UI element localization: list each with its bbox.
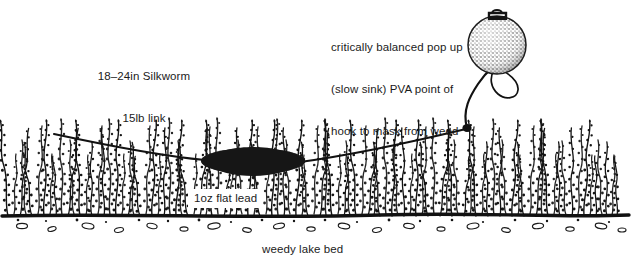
label-silkworm-link: 18–24in Silkworm 15lb link — [84, 41, 204, 153]
label-weedy-lake-bed: weedy lake bed — [262, 242, 343, 256]
flat-lead-weight — [201, 147, 305, 176]
pop-up-boilie — [468, 16, 526, 74]
label-popup-line2: (slow sink) PVA point of — [331, 82, 463, 96]
label-silkworm-line1: 18–24in Silkworm — [84, 69, 204, 83]
label-popup-bait: critically balanced pop up (slow sink) P… — [331, 12, 463, 166]
lake-bed-silt — [2, 214, 629, 223]
label-popup-line3: hook to mask from weed — [331, 124, 463, 138]
pebbles — [17, 222, 627, 233]
hook-icon — [488, 10, 507, 20]
hook-link — [465, 66, 518, 128]
label-flat-lead: 1oz flat lead — [188, 189, 263, 208]
label-silkworm-line2: 15lb link — [84, 111, 204, 125]
rig-diagram: 18–24in Silkworm 15lb link critically ba… — [0, 0, 631, 262]
label-popup-line1: critically balanced pop up — [331, 40, 463, 54]
